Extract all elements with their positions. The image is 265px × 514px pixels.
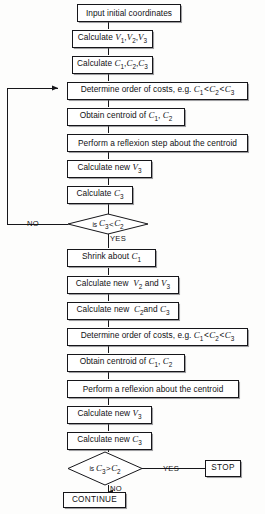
node-label: Obtain centroid of C1, C2 bbox=[80, 111, 173, 122]
decision-is-c3-greater-than-c2[interactable]: is C3>C2 bbox=[68, 452, 142, 485]
node-perform-reflexion[interactable]: Perform a reflexion about the centroid bbox=[67, 380, 239, 398]
edge-label-yes-stop: YES bbox=[163, 464, 179, 473]
node-calculate-new-v3-2[interactable]: Calculate new V3 bbox=[67, 406, 152, 424]
node-perform-reflexion-step[interactable]: Perform a reflexion step about the centr… bbox=[67, 134, 248, 152]
node-calculate-new-c3[interactable]: Calculate new C3 bbox=[67, 432, 152, 450]
node-calculate-c3[interactable]: Calculate C3 bbox=[67, 186, 133, 204]
node-obtain-centroid-1[interactable]: Obtain centroid of C1, C2 bbox=[67, 108, 185, 126]
node-determine-order-of-costs-2[interactable]: Determine order of costs, e.g. C1<C2<C3 bbox=[67, 328, 248, 346]
node-label: CONTINUE bbox=[72, 496, 117, 504]
node-label: Input initial coordinates bbox=[86, 9, 172, 17]
node-label: Calculate C3 bbox=[77, 189, 124, 200]
decision-is-c3-less-than-c2[interactable]: is C3<C2 bbox=[68, 214, 148, 234]
node-label: Calculate V1,V2,V3 bbox=[78, 33, 147, 44]
node-label: Perform a reflexion step about the centr… bbox=[78, 139, 237, 147]
edge-label-yes-shrink: YES bbox=[110, 234, 126, 243]
node-label: STOP bbox=[211, 464, 234, 472]
node-stop[interactable]: STOP bbox=[205, 460, 241, 477]
node-label: Calculate new C3 bbox=[77, 435, 142, 446]
node-label: Calculate new C2and C3 bbox=[76, 305, 169, 316]
edge-label-no-loopback: NO bbox=[27, 219, 39, 228]
node-label: Calculate new V3 bbox=[77, 409, 141, 420]
node-label: Calculate C1,C2,C3 bbox=[77, 59, 148, 70]
node-label: Obtain centroid of C1, C2 bbox=[80, 357, 173, 368]
node-continue[interactable]: CONTINUE bbox=[63, 492, 126, 508]
node-calculate-c1-c2-c3[interactable]: Calculate C1,C2,C3 bbox=[72, 56, 153, 74]
node-obtain-centroid-2[interactable]: Obtain centroid of C1, C2 bbox=[67, 354, 185, 372]
node-input-initial-coordinates[interactable]: Input initial coordinates bbox=[77, 4, 181, 22]
node-label: Determine order of costs, e.g. C1<C2<C3 bbox=[81, 331, 235, 342]
node-label: Calculate new V2 and V3 bbox=[76, 279, 170, 290]
node-calculate-new-c2-c3[interactable]: Calculate new C2and C3 bbox=[67, 302, 179, 320]
node-label: Shrink about C1 bbox=[82, 252, 141, 263]
node-calculate-new-v3-1[interactable]: Calculate new V3 bbox=[67, 160, 152, 178]
node-calculate-new-v2-v3[interactable]: Calculate new V2 and V3 bbox=[67, 276, 179, 294]
node-label: Calculate new V3 bbox=[77, 163, 141, 174]
node-shrink-about-c1[interactable]: Shrink about C1 bbox=[67, 249, 156, 267]
node-label: Determine order of costs, e.g. C1<C2<C3 bbox=[81, 85, 235, 96]
node-determine-order-of-costs-1[interactable]: Determine order of costs, e.g. C1<C2<C3 bbox=[67, 82, 248, 100]
node-label: Perform a reflexion about the centroid bbox=[83, 385, 224, 393]
node-calculate-v1-v2-v3[interactable]: Calculate V1,V2,V3 bbox=[72, 30, 153, 48]
flowchart-canvas: Input initial coordinates Calculate V1,V… bbox=[0, 0, 265, 514]
